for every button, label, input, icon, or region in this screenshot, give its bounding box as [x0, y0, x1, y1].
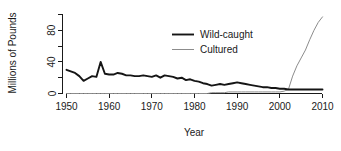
x-tick-label-1950: 1950 — [55, 101, 78, 112]
y-axis-title: Millions of Pounds — [7, 12, 18, 93]
y-tick-label-80: 80 — [47, 24, 58, 36]
x-tick-label-1990: 1990 — [226, 101, 249, 112]
chart-canvas: 0 40 80 1950 1960 1970 1980 1990 2000 20… — [0, 0, 341, 151]
chart-legend: Wild-caught Cultured — [172, 29, 253, 55]
x-tick-label-1960: 1960 — [98, 101, 121, 112]
x-axis-title: Year — [184, 127, 205, 138]
series-line-wild-caught — [67, 62, 323, 90]
x-tick-label-1970: 1970 — [141, 101, 164, 112]
x-tick-label-1980: 1980 — [183, 101, 206, 112]
chart-figure: 0 40 80 1950 1960 1970 1980 1990 2000 20… — [0, 0, 341, 151]
y-tick-label-40: 40 — [47, 56, 58, 68]
x-tick-group — [67, 94, 323, 99]
legend-label-wild-caught: Wild-caught — [200, 29, 253, 40]
series-line-cultured — [67, 17, 323, 94]
x-tick-label-2000: 2000 — [269, 101, 292, 112]
x-tick-label-2010: 2010 — [311, 101, 334, 112]
legend-label-cultured: Cultured — [200, 44, 238, 55]
y-tick-label-0: 0 — [47, 90, 58, 96]
y-tick-group — [58, 15, 63, 94]
